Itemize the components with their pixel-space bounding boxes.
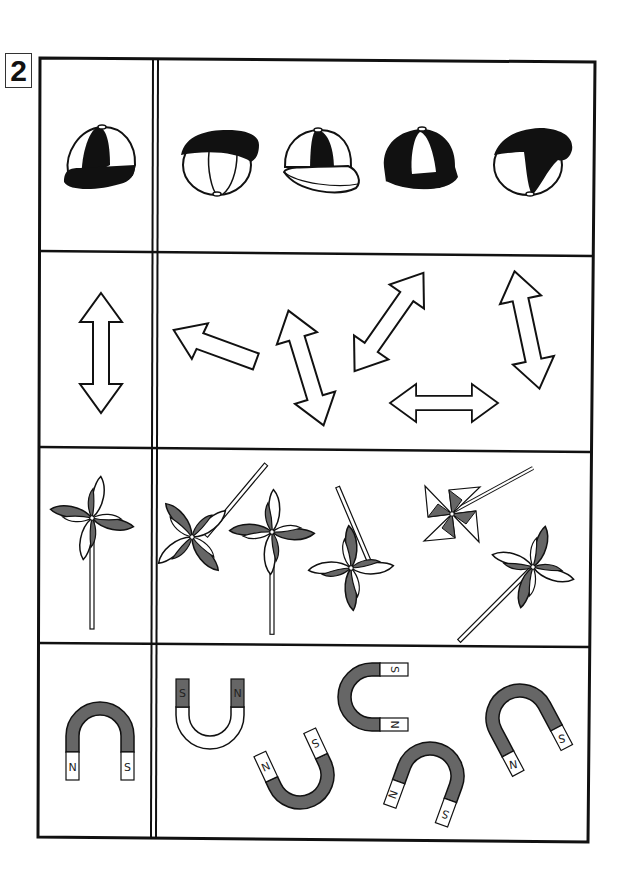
double-arrow-icon[interactable] — [268, 304, 343, 431]
row-magnets: N S S N N S S N — [66, 663, 573, 827]
pole-label-n: N — [68, 761, 76, 774]
double-arrow-icon[interactable] — [494, 267, 560, 393]
double-arrow-icon[interactable] — [80, 293, 122, 413]
baseball-cap-icon[interactable] — [384, 127, 458, 190]
puzzle-sheet: N S S N N S S N — [0, 0, 618, 896]
double-arrow-icon[interactable] — [390, 384, 498, 422]
pinwheel-icon[interactable] — [38, 464, 146, 629]
baseball-cap-icon[interactable] — [64, 125, 135, 189]
horseshoe-magnet-icon[interactable]: S N — [338, 663, 408, 731]
baseball-cap-icon[interactable] — [494, 128, 572, 196]
baseball-cap-icon[interactable] — [284, 128, 359, 192]
horseshoe-magnet-icon[interactable]: N S — [383, 732, 473, 827]
baseball-cap-icon[interactable] — [181, 130, 259, 196]
arrow-left-icon[interactable] — [166, 313, 262, 380]
row-caps — [64, 125, 572, 196]
pole-label-s: S — [179, 687, 186, 700]
pinwheel-icon[interactable] — [223, 483, 320, 634]
double-arrow-icon[interactable] — [337, 261, 440, 383]
horseshoe-magnet-icon[interactable]: N S — [66, 702, 134, 780]
horseshoe-magnet-icon[interactable]: S N — [176, 679, 244, 749]
pole-label-s: S — [388, 666, 401, 673]
row-pinwheels — [38, 463, 589, 642]
pinwheel-icon[interactable] — [305, 486, 396, 613]
pole-label-s: S — [124, 761, 131, 774]
pole-label-n: N — [233, 687, 241, 700]
horseshoe-magnet-icon[interactable]: N S — [474, 672, 573, 776]
pole-label-n: N — [388, 720, 401, 728]
triangle-pinwheel-icon[interactable] — [424, 468, 533, 542]
horseshoe-magnet-icon[interactable]: N S — [254, 728, 345, 820]
